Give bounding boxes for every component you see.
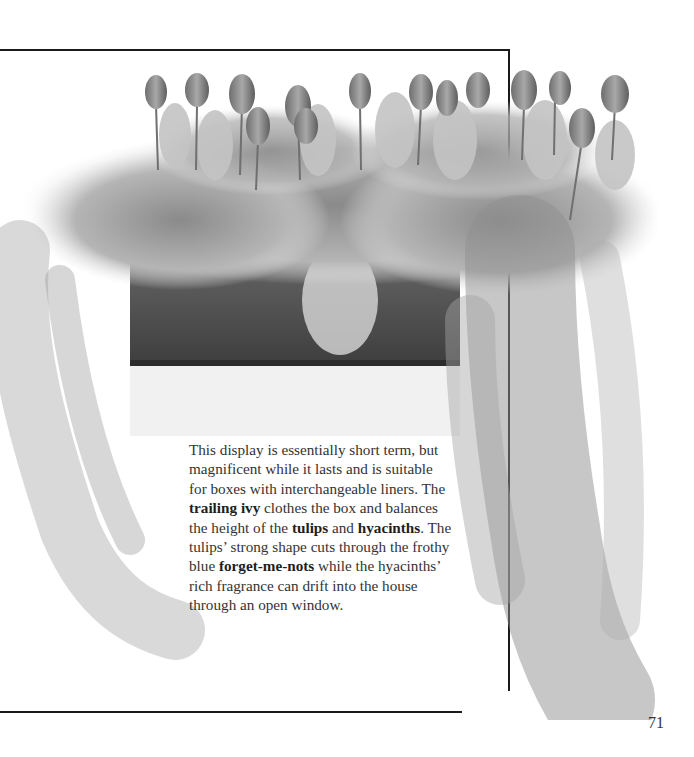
caption-text: This display is essentially short term, … xyxy=(189,441,445,497)
caption-paragraph: This display is essentially short term, … xyxy=(189,440,454,615)
caption-bold-tulips: tulips xyxy=(292,519,328,536)
caption-bold-forget-me-nots: forget-me-nots xyxy=(219,557,314,574)
page-number: 71 xyxy=(648,714,664,732)
caption-text: and xyxy=(328,519,358,536)
caption-bold-trailing-ivy: trailing ivy xyxy=(189,499,260,516)
top-rule-line xyxy=(0,49,510,51)
right-trailing-ivy xyxy=(470,250,624,700)
window-box-illustration xyxy=(0,60,694,720)
caption-bold-hyacinths: hyacinths xyxy=(358,519,420,536)
